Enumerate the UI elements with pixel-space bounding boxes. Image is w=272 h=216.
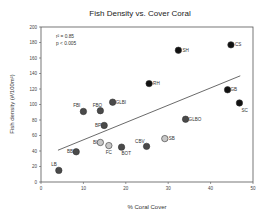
y-tick-label: 0 <box>34 180 37 185</box>
data-point-glbo: GLBO <box>182 116 201 122</box>
y-tick-label: 160 <box>29 56 37 61</box>
point-marker <box>146 80 152 86</box>
data-point-sc: SC <box>236 100 248 113</box>
point-label: FBI <box>73 103 80 108</box>
data-point-cs: CS <box>228 42 242 48</box>
point-marker <box>143 143 149 149</box>
point-marker <box>97 108 103 114</box>
point-label: SC <box>241 108 248 113</box>
data-point-bb: BB <box>67 149 79 155</box>
point-marker <box>236 100 242 106</box>
y-tick-label: 120 <box>29 87 37 92</box>
r-squared-annotation: r² = 0.85 <box>56 34 74 39</box>
data-point-cbv: CBV <box>135 139 150 150</box>
y-tick-label: 20 <box>32 164 38 169</box>
point-label: GLBI <box>116 100 126 105</box>
data-point-lb: LB <box>51 162 62 173</box>
point-label: CBV <box>135 139 145 144</box>
y-tick-label: 140 <box>29 71 37 76</box>
point-marker <box>101 122 107 128</box>
x-tick-label: 20 <box>123 186 129 191</box>
x-tick-label: 40 <box>208 186 214 191</box>
point-label: BOT <box>122 151 132 156</box>
data-points: CSSHRHGBSCGLBIFBOFBIGLBOBPSBBIFCCBVBOTBB… <box>51 42 248 174</box>
x-tick-label: 50 <box>250 186 256 191</box>
data-point-fbo: FBO <box>93 103 104 114</box>
y-tick-label: 80 <box>32 118 38 123</box>
data-point-gb: GB <box>224 87 237 93</box>
x-tick-label: 30 <box>166 186 172 191</box>
point-label: FBO <box>93 103 103 108</box>
point-label: LB <box>51 162 57 167</box>
data-point-sb: SB <box>162 135 175 141</box>
data-point-fbi: FBI <box>73 103 86 114</box>
point-label: BP <box>95 123 101 128</box>
p-value-annotation: p < 0.005 <box>56 41 76 46</box>
y-axis-label: Fish density (#/100m²) <box>9 74 15 134</box>
data-point-bi: BI <box>93 139 104 145</box>
point-marker <box>80 108 86 114</box>
scatter-chart: Fish Density vs. Cover Coral 02040608010… <box>0 0 272 216</box>
point-label: CS <box>235 42 241 47</box>
data-point-bot: BOT <box>118 144 131 156</box>
point-marker <box>56 167 62 173</box>
x-tick-label: 0 <box>40 186 43 191</box>
point-label: SH <box>182 48 188 53</box>
point-label: FC <box>106 150 113 155</box>
point-marker <box>73 149 79 155</box>
data-point-glbi: GLBI <box>109 99 126 105</box>
y-tick-label: 200 <box>29 25 37 30</box>
data-point-bp: BP <box>95 122 107 128</box>
point-marker <box>175 47 181 53</box>
point-marker <box>228 42 234 48</box>
data-point-fc: FC <box>106 142 113 154</box>
data-point-sh: SH <box>175 47 189 53</box>
y-tick-label: 180 <box>29 40 37 45</box>
point-label: RH <box>153 81 160 86</box>
y-tick-label: 40 <box>32 149 38 154</box>
point-label: BB <box>67 149 73 154</box>
data-point-rh: RH <box>146 80 160 86</box>
point-label: GLBO <box>189 117 202 122</box>
axes: 02040608010012014016018020001020304050 <box>29 25 256 191</box>
point-label: SB <box>169 136 175 141</box>
point-label: BI <box>93 140 97 145</box>
point-marker <box>106 142 112 148</box>
point-marker <box>97 139 103 145</box>
point-marker <box>162 135 168 141</box>
point-marker <box>118 144 124 150</box>
point-label: GB <box>231 87 238 92</box>
y-tick-label: 60 <box>32 133 38 138</box>
chart-title: Fish Density vs. Cover Coral <box>89 9 191 18</box>
x-tick-label: 10 <box>81 186 87 191</box>
x-axis-label: % Coral Cover <box>127 204 166 210</box>
y-tick-label: 100 <box>29 102 37 107</box>
chart-canvas: Fish Density vs. Cover Coral 02040608010… <box>0 0 272 216</box>
